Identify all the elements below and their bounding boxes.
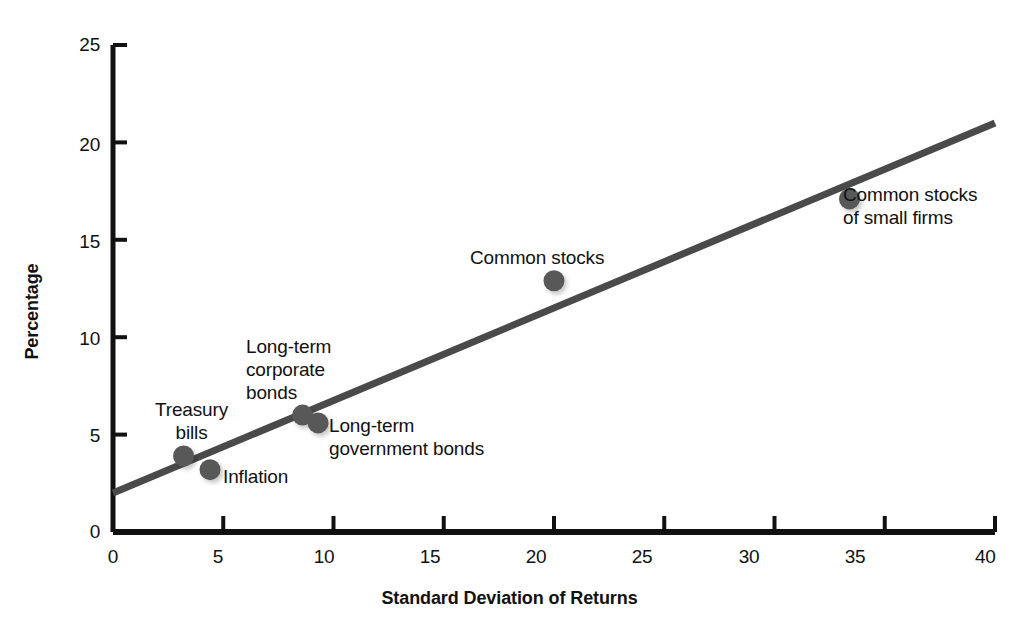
- data-point-label: Common stocks of small firms: [843, 183, 977, 229]
- data-point-label: Common stocks: [470, 246, 604, 269]
- data-point-label: Treasury bills: [155, 398, 228, 444]
- y-axis-title: Percentage: [22, 242, 43, 382]
- y-tick-label-10: 10: [60, 328, 100, 350]
- data-point[interactable]: [308, 412, 329, 433]
- y-tick-label-25: 25: [60, 34, 100, 56]
- x-tick-label-40: 40: [975, 546, 1015, 568]
- data-point[interactable]: [200, 459, 221, 480]
- data-point-label: Long-term government bonds: [329, 414, 484, 460]
- trend-line: [113, 123, 995, 493]
- y-tick-label-5: 5: [60, 425, 100, 447]
- x-tick-label-15: 15: [410, 546, 450, 568]
- data-point-label: Inflation: [223, 465, 288, 488]
- x-tick-label-25: 25: [622, 546, 662, 568]
- data-point[interactable]: [173, 446, 194, 467]
- y-tick-label-20: 20: [60, 134, 100, 156]
- x-tick-label-30: 30: [729, 546, 769, 568]
- x-tick-label-20: 20: [516, 546, 556, 568]
- x-tick-label-5: 5: [198, 546, 238, 568]
- plot-canvas: [0, 0, 1019, 633]
- y-tick-label-0: 0: [60, 521, 100, 543]
- data-point-label: Long-term corporate bonds: [246, 335, 331, 404]
- data-point[interactable]: [544, 270, 565, 291]
- trend-line-group: [113, 123, 995, 493]
- y-tick-label-15: 15: [60, 231, 100, 253]
- x-tick-label-10: 10: [304, 546, 344, 568]
- scatter-chart: 25 20 15 10 5 0 0 5 10 15 20 25 30 35 40…: [0, 0, 1019, 633]
- x-tick-label-35: 35: [835, 546, 875, 568]
- x-tick-label-0: 0: [93, 546, 133, 568]
- x-axis-title: Standard Deviation of Returns: [0, 588, 1019, 609]
